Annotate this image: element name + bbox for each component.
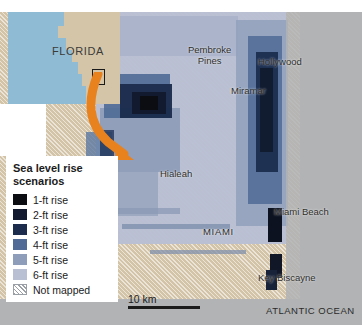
legend-label-1ft: 1-ft rise <box>33 194 68 206</box>
legend-item-1ft: 1-ft rise <box>13 192 112 207</box>
flood-zone-2ft <box>260 68 273 152</box>
legend-label-6ft: 6-ft rise <box>33 269 68 281</box>
place-label-hollywood: Hollywood <box>258 56 302 67</box>
legend-item-5ft: 5-ft rise <box>13 252 112 267</box>
legend-label-not-mapped: Not mapped <box>33 284 90 296</box>
inset-backdrop-notch <box>0 104 46 156</box>
legend-item-not-mapped: Not mapped <box>13 282 112 297</box>
legend-item-6ft: 6-ft rise <box>13 267 112 282</box>
legend-item-3ft: 3-ft rise <box>13 222 112 237</box>
place-label-key-biscayne: Key Biscayne <box>258 272 316 283</box>
scale-bar-line <box>128 306 200 309</box>
bottom-margin <box>0 325 362 329</box>
scale-bar: 10 km <box>128 293 208 309</box>
legend-swatch-5ft <box>13 254 27 265</box>
legend-swatch-3ft <box>13 224 27 235</box>
legend-swatch-1ft <box>13 194 27 205</box>
legend-swatch-2ft <box>13 209 27 220</box>
legend-swatch-6ft <box>13 269 27 280</box>
legend-panel: Sea level rise scenarios 1-ft rise 2-ft … <box>6 156 118 302</box>
place-label-hialeah: Hialeah <box>160 168 192 179</box>
sea-level-rise-figure: PembrokePines Hollywood Miramar Hialeah … <box>0 0 362 329</box>
legend-item-4ft: 4-ft rise <box>13 237 112 252</box>
pointer-arrow-icon <box>62 72 158 164</box>
legend-label-5ft: 5-ft rise <box>33 254 68 266</box>
flood-zone-4ft <box>150 250 246 254</box>
legend-swatch-not-mapped <box>13 284 27 295</box>
inset-label-florida: FLORIDA <box>52 45 104 57</box>
legend-label-3ft: 3-ft rise <box>33 224 68 236</box>
legend-title: Sea level rise scenarios <box>13 162 112 187</box>
legend-label-2ft: 2-ft rise <box>33 209 68 221</box>
place-label-miramar: Miramar <box>231 85 266 96</box>
top-margin <box>0 0 362 12</box>
place-label-miami-beach: Miami Beach <box>274 206 329 217</box>
legend-item-2ft: 2-ft rise <box>13 207 112 222</box>
place-label-miami: MIAMI <box>203 226 234 237</box>
place-label-pembroke-pines: PembrokePines <box>188 44 231 66</box>
scale-bar-label: 10 km <box>128 293 208 305</box>
ocean-label-atlantic: ATLANTIC OCEAN <box>266 305 355 316</box>
legend-swatch-4ft <box>13 239 27 250</box>
legend-label-4ft: 4-ft rise <box>33 239 68 251</box>
